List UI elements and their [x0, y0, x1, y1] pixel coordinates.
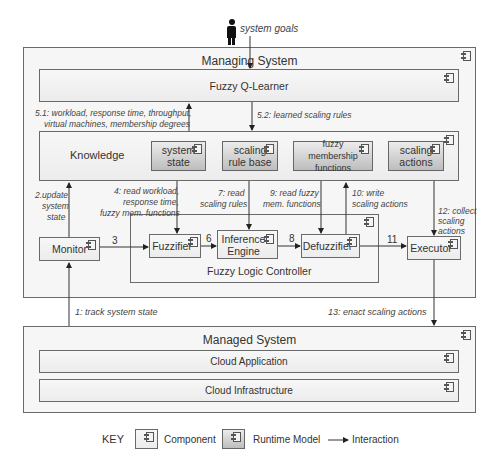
label-11: 11	[387, 234, 397, 245]
key-component-swatch	[135, 429, 158, 449]
label-7b: scaling rules	[200, 199, 247, 209]
label-4c: fuzzy mem. functions	[100, 208, 180, 218]
label-9b: mem. functions	[263, 199, 321, 209]
key-component-label: Component	[164, 434, 216, 445]
label-9a: 9: read fuzzy	[270, 188, 319, 198]
label-12b: scaling	[438, 216, 464, 226]
label-5-1b: virtual machines, membership degrees	[44, 119, 190, 129]
label-2b: system	[42, 201, 69, 211]
label-1: 1: track system state	[75, 307, 158, 317]
key-title: KEY	[102, 433, 124, 445]
label-6: 6	[206, 233, 212, 244]
label-5-1a: 5.1: workload, response time, throughput…	[35, 108, 191, 118]
label-12c: actions	[438, 226, 465, 236]
label-3: 3	[112, 235, 118, 246]
interaction-arrows	[0, 0, 497, 466]
label-10a: 10: write	[352, 188, 384, 198]
label-5-2: 5.2: learned scaling rules	[257, 110, 352, 120]
label-12a: 12: collect	[438, 206, 476, 216]
label-2a: 2.update	[35, 190, 68, 200]
key-interaction-arrow-icon	[328, 436, 350, 444]
label-8: 8	[289, 233, 295, 244]
component-icon	[146, 432, 154, 442]
key-runtime-model-swatch	[222, 429, 245, 449]
key-interaction-label: Interaction	[352, 434, 399, 445]
key-runtime-model-label: Runtime Model	[253, 434, 320, 445]
label-7a: 7: read	[218, 188, 244, 198]
label-4b: response time,	[123, 197, 179, 207]
component-icon	[233, 432, 241, 442]
label-4a: 4: read workload,	[114, 186, 179, 196]
label-13: 13: enact scaling actions	[328, 307, 427, 317]
label-10b: scaling actions	[352, 199, 408, 209]
label-2c: state	[47, 212, 65, 222]
